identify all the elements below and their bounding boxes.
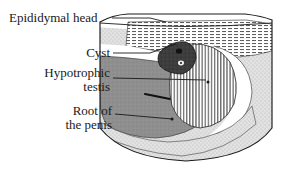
cyst-lumen-dot xyxy=(180,62,182,64)
label-hypotrophic-line-1: Hypotrophic xyxy=(0,66,110,80)
label-root-line-2: the penis xyxy=(0,118,112,132)
cyst-echo-focus xyxy=(176,48,182,53)
testis-echo-dot xyxy=(207,81,210,84)
label-epididymal-head: Epididymal head xyxy=(9,11,97,25)
figure-canvas: Epididymal head Cyst Hypotrophic testis … xyxy=(0,0,285,178)
label-hypotrophic-line-2: testis xyxy=(0,80,110,94)
label-root-line-1: Root of xyxy=(0,104,112,118)
label-root-of-the-penis: Root of the penis xyxy=(0,104,112,132)
label-cyst: Cyst xyxy=(0,46,110,60)
label-hypotrophic-testis: Hypotrophic testis xyxy=(0,66,110,94)
sector-contents xyxy=(90,10,285,170)
